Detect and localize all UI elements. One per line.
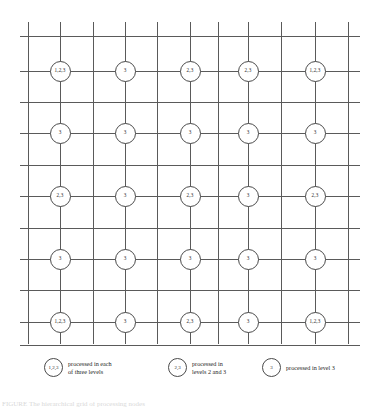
grid-node: 1,2,3 — [50, 312, 71, 333]
grid-node: 2,3 — [180, 186, 201, 207]
grid-node-label: 2,3 — [187, 193, 194, 198]
grid-node: 3 — [305, 249, 326, 270]
grid-node-label: 3 — [247, 256, 250, 261]
grid-node: 3 — [238, 312, 259, 333]
grid-node: 3 — [305, 123, 326, 144]
grid-node-label: 1,2,3 — [310, 68, 321, 73]
grid-node: 3 — [115, 249, 136, 270]
grid-node-label: 3 — [124, 193, 127, 198]
grid-node-label: 3 — [247, 193, 250, 198]
grid-node: 2,3 — [305, 186, 326, 207]
grid-node-label: 3 — [124, 130, 127, 135]
grid-node-label: 3 — [124, 319, 127, 324]
grid-node-label: 1,2,3 — [55, 68, 66, 73]
legend-key-label: 2,3 — [174, 365, 180, 370]
figure-caption-partial: FIGURE The hierarchical grid of processi… — [2, 402, 145, 408]
grid-node: 3 — [50, 249, 71, 270]
grid-node-label: 2,3 — [187, 319, 194, 324]
figure-container: 1,2,332,32,31,2,3333332,332,332,3333331,… — [0, 0, 380, 410]
bottom-caption-strip: FIGURE The hierarchical grid of processi… — [0, 402, 380, 410]
legend: 1,2,3 processed in each of three levels … — [0, 352, 380, 394]
legend-circle-icon: 1,2,3 — [44, 358, 63, 377]
grid-node: 3 — [50, 123, 71, 144]
grid-node-label: 1,2,3 — [55, 319, 66, 324]
grid-node-label: 3 — [59, 256, 62, 261]
grid-node-label: 2,3 — [187, 68, 194, 73]
grid-node: 2,3 — [180, 61, 201, 82]
legend-key-label: 1,2,3 — [49, 365, 59, 370]
grid-node: 3 — [238, 123, 259, 144]
grid-line-horizontal — [20, 102, 360, 103]
grid-node-label: 3 — [59, 130, 62, 135]
legend-item-all-levels: 1,2,3 processed in each of three levels — [44, 358, 112, 377]
grid-line-horizontal — [20, 290, 360, 291]
grid-node: 1,2,3 — [305, 61, 326, 82]
grid-line-horizontal — [20, 36, 360, 37]
legend-description: processed in each of three levels — [68, 360, 112, 375]
grid-node: 2,3 — [180, 312, 201, 333]
grid-node: 2,3 — [238, 61, 259, 82]
legend-key-label: 3 — [270, 365, 273, 370]
grid-node-label: 3 — [124, 68, 127, 73]
legend-item-levels-2-3: 2,3 processed in levels 2 and 3 — [168, 358, 226, 377]
legend-item-level-3: 3 processed in level 3 — [262, 358, 335, 377]
grid-node: 3 — [115, 61, 136, 82]
grid-diagram: 1,2,332,32,31,2,3333332,332,332,3333331,… — [0, 0, 380, 350]
legend-circle-icon: 2,3 — [168, 358, 187, 377]
grid-node: 3 — [180, 249, 201, 270]
grid-node: 3 — [115, 312, 136, 333]
grid-line-horizontal — [20, 165, 360, 166]
grid-node-label: 3 — [189, 256, 192, 261]
grid-node-label: 2,3 — [312, 193, 319, 198]
grid-node-label: 1,2,3 — [310, 319, 321, 324]
legend-description: processed in level 3 — [286, 364, 335, 372]
grid-node: 1,2,3 — [50, 61, 71, 82]
grid-node: 1,2,3 — [305, 312, 326, 333]
grid-node-label: 3 — [189, 130, 192, 135]
grid-node: 3 — [180, 123, 201, 144]
grid-node-label: 2,3 — [245, 68, 252, 73]
grid-node-label: 3 — [247, 130, 250, 135]
grid-node-label: 3 — [314, 130, 317, 135]
grid-node: 3 — [238, 249, 259, 270]
grid-line-horizontal — [20, 228, 360, 229]
grid-line-horizontal — [20, 345, 360, 346]
grid-node-label: 3 — [124, 256, 127, 261]
grid-node-label: 2,3 — [57, 193, 64, 198]
grid-node-label: 3 — [247, 319, 250, 324]
legend-description: processed in levels 2 and 3 — [192, 360, 226, 375]
legend-circle-icon: 3 — [262, 358, 281, 377]
grid-node-label: 3 — [314, 256, 317, 261]
grid-node: 3 — [115, 186, 136, 207]
grid-node: 3 — [115, 123, 136, 144]
grid-node: 2,3 — [50, 186, 71, 207]
grid-node: 3 — [238, 186, 259, 207]
